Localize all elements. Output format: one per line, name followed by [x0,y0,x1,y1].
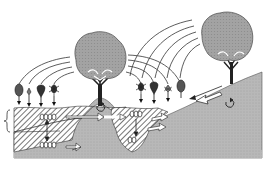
dispersal-arcs-left [19,57,74,84]
seed-oval-icon [177,80,185,92]
seed-drop-icon [150,82,158,95]
bracket-icon [4,110,10,132]
seed-bank-cluster-center [130,111,142,117]
tree-center [75,32,126,106]
seeds-right [136,80,185,104]
seed-drop-icon [37,85,45,98]
tree-right [202,12,253,84]
seed-oval-icon [15,84,23,96]
seed-winged-icon [165,85,171,92]
seed-winged-icon [27,88,31,95]
seed-dispersal-diagram [0,0,270,169]
seeds-left [15,84,59,107]
